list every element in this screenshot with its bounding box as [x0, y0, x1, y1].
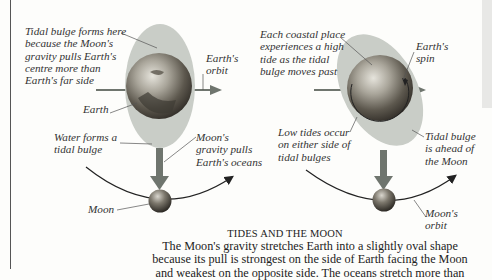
earth-globe-icon-right	[347, 55, 413, 121]
gravity-arrow	[156, 148, 163, 178]
caption-title: TIDES AND THE MOON	[130, 228, 440, 239]
moon-icon	[149, 190, 172, 213]
label-earths-orbit: Earth's orbit	[206, 52, 238, 77]
label-moon: Moon	[88, 203, 114, 215]
label-moons-gravity: Moon's gravity pulls Earth's oceans	[196, 131, 262, 168]
right-moon-icon	[373, 189, 396, 212]
right-gravity-arrowhead-icon	[374, 176, 393, 190]
label-low-tides: Low tides occur on either side of tidal …	[278, 126, 350, 163]
label-tidal-bulge-ahead: Tidal bulge is ahead of the Moon	[425, 130, 476, 167]
gravity-arrowhead-icon	[150, 176, 169, 190]
label-each-coastal-place: Each coastal place experiences a high ti…	[260, 28, 345, 77]
earth-orbit-arrowhead-icon	[210, 85, 222, 95]
label-earth: Earth	[83, 103, 108, 115]
label-earths-spin: Earth's spin	[416, 40, 448, 65]
caption-body: The Moon's gravity stretches Earth into …	[130, 240, 490, 280]
label-water-forms: Water forms a tidal bulge	[54, 131, 117, 156]
label-tidal-bulge-forms: Tidal bulge forms here because the Moon'…	[25, 25, 126, 86]
